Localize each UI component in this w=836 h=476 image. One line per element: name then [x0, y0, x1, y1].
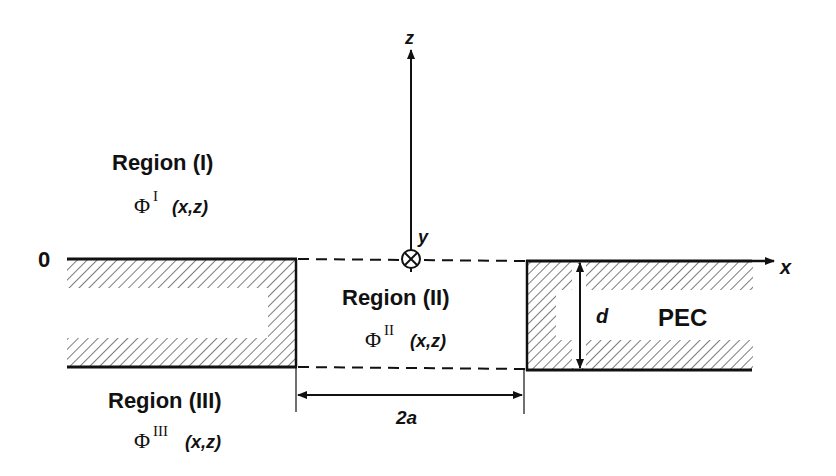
- svg-text:III: III: [153, 423, 168, 439]
- svg-text:I: I: [153, 188, 158, 204]
- svg-text:Φ: Φ: [134, 193, 150, 218]
- region-iii-title: Region (III): [108, 388, 222, 413]
- left-pec-block: [67, 259, 297, 367]
- svg-text:Φ: Φ: [365, 327, 381, 352]
- pec-label: PEC: [658, 304, 707, 331]
- right-pec-block: [526, 260, 753, 371]
- y-axis-into-page-icon: [402, 250, 420, 268]
- thickness-label: d: [596, 305, 609, 327]
- aperture-bottom-boundary: [298, 367, 525, 369]
- region-ii-title: Region (II): [342, 285, 450, 310]
- z-axis-label: z: [404, 28, 414, 48]
- region-ii-potential: Φ II (x,z): [365, 322, 446, 352]
- svg-text:(x,z): (x,z): [410, 331, 446, 351]
- thickness-dimension: [572, 263, 586, 368]
- slit-width-label: 2a: [395, 407, 418, 428]
- slit-diagram: x z y 0 Region (I) Φ I (x,z) Region (II)…: [0, 0, 836, 476]
- region-iii-potential: Φ III (x,z): [134, 423, 221, 453]
- origin-label: 0: [38, 247, 50, 272]
- x-axis-label: x: [779, 256, 792, 278]
- y-axis-label: y: [417, 227, 429, 247]
- svg-text:II: II: [384, 322, 394, 338]
- region-i-title: Region (I): [112, 150, 213, 175]
- region-i-potential: Φ I (x,z): [134, 188, 208, 218]
- svg-text:(x,z): (x,z): [172, 197, 208, 217]
- svg-text:(x,z): (x,z): [185, 432, 221, 452]
- svg-text:Φ: Φ: [134, 428, 150, 453]
